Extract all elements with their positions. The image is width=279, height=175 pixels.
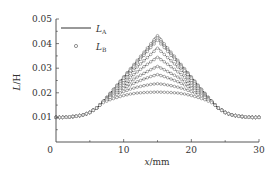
series-marker	[133, 69, 136, 72]
series-marker	[92, 109, 95, 112]
x-axis-label-unit: /mm	[149, 157, 170, 167]
series-marker	[75, 115, 78, 118]
legend-b-sub: B	[102, 46, 107, 53]
series-marker	[133, 66, 136, 69]
series-marker	[207, 100, 210, 103]
series-marker	[146, 91, 149, 94]
series-marker	[163, 91, 166, 94]
series-marker	[133, 73, 136, 76]
x-tick-label: 0	[47, 145, 53, 155]
series-marker	[200, 97, 203, 100]
series-marker	[153, 58, 156, 61]
series-marker	[258, 116, 261, 119]
series-marker	[143, 91, 146, 94]
series-marker	[193, 95, 196, 98]
series-marker	[160, 43, 163, 46]
series-marker	[122, 90, 125, 93]
y-tick-label: 0.03	[32, 63, 52, 73]
series-marker	[143, 54, 146, 57]
series-marker	[82, 114, 85, 117]
series-marker	[156, 82, 159, 85]
series-marker	[156, 73, 159, 76]
series-marker	[173, 68, 176, 71]
series-marker	[183, 93, 186, 96]
series-marker	[143, 84, 146, 87]
series-marker	[126, 85, 129, 88]
series-marker	[180, 92, 183, 95]
series-marker	[126, 89, 129, 92]
series-marker	[153, 67, 156, 70]
series-marker	[136, 86, 139, 89]
series-marker	[166, 56, 169, 59]
series-marker	[153, 43, 156, 46]
series-marker	[170, 72, 173, 75]
series-marker	[241, 115, 244, 118]
series-marker	[149, 68, 152, 71]
series-marker	[136, 71, 139, 74]
series-marker	[139, 58, 142, 61]
series-marker	[177, 62, 180, 65]
series-marker	[177, 66, 180, 69]
series-marker	[119, 89, 122, 92]
series-marker	[190, 90, 193, 93]
series-marker	[72, 115, 75, 118]
legend: LA LB	[61, 24, 107, 53]
y-tick-label: 0.04	[32, 39, 52, 49]
series-marker	[200, 95, 203, 98]
series-marker	[136, 92, 139, 95]
series-marker	[210, 101, 213, 104]
series-marker	[187, 73, 190, 76]
series-marker	[149, 91, 152, 94]
series-marker	[180, 87, 183, 90]
series-marker	[122, 82, 125, 85]
series-line-2	[56, 38, 259, 117]
series-marker	[197, 93, 200, 96]
series-marker	[143, 60, 146, 63]
series-marker	[133, 87, 136, 90]
series-marker	[163, 68, 166, 71]
y-axis-label: L/H	[12, 73, 22, 91]
series-marker	[136, 66, 139, 69]
series-marker	[177, 80, 180, 83]
y-axis-label-var: L	[12, 84, 22, 91]
series-marker	[146, 76, 149, 79]
series-marker	[180, 73, 183, 76]
series-marker	[177, 76, 180, 79]
series-marker	[139, 63, 142, 66]
series-marker	[126, 79, 129, 82]
series-marker	[234, 114, 237, 117]
series-marker	[89, 111, 92, 114]
series-marker	[166, 84, 169, 87]
series-marker	[170, 78, 173, 81]
series-marker	[173, 79, 176, 82]
series-marker	[119, 92, 122, 95]
series-marker	[153, 50, 156, 53]
series-marker	[163, 75, 166, 78]
series-marker	[187, 89, 190, 92]
legend-label-b: LB	[95, 42, 107, 53]
series-marker	[187, 82, 190, 85]
series-marker	[180, 78, 183, 81]
series-marker	[193, 92, 196, 95]
series-marker	[170, 60, 173, 63]
series-marker	[133, 78, 136, 81]
series-marker	[190, 87, 193, 90]
series-marker	[170, 65, 173, 68]
series-marker	[129, 84, 132, 87]
y-tick-label: 0.02	[32, 88, 52, 98]
series-marker	[99, 104, 102, 107]
series-marker	[177, 71, 180, 74]
x-axis-label: x/mm	[144, 157, 170, 167]
series-marker	[177, 92, 180, 95]
series-marker	[170, 54, 173, 57]
series-marker	[126, 82, 129, 85]
series-marker	[177, 86, 180, 89]
series-marker	[122, 94, 125, 97]
series-marker	[214, 104, 217, 107]
series-marker	[160, 74, 163, 77]
series-marker	[102, 101, 105, 104]
series-line-3	[56, 40, 259, 117]
series-marker	[248, 116, 251, 119]
legend-a-main: L	[95, 24, 102, 34]
legend-a-sub: A	[101, 28, 107, 35]
